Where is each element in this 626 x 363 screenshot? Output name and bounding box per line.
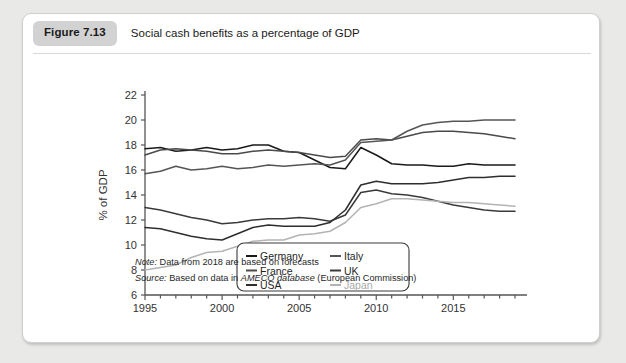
series-line-uk [145, 190, 515, 224]
y-tick-label: 18 [125, 139, 137, 151]
source-label: Source: [135, 273, 167, 283]
x-tick-label: 2005 [287, 302, 311, 314]
legend-label-italy: Italy [344, 250, 364, 262]
y-tick-label: 22 [125, 89, 137, 101]
series-line-france [145, 131, 515, 157]
figure-caption-text: Social cash benefits as a percentage of … [131, 28, 360, 40]
x-tick-label: 2000 [210, 302, 234, 314]
note-label: Note: [135, 257, 157, 267]
chart-area: 681012141618202219952000200520102015% of… [23, 54, 601, 343]
y-tick-label: 16 [125, 164, 137, 176]
source-database-name: AMECO database [241, 273, 315, 283]
x-tick-label: 1995 [133, 302, 157, 314]
figure-source: Source: Based on data in AMECO database … [135, 273, 416, 283]
y-tick-label: 6 [131, 289, 137, 301]
figure-note: Note: Data from 2018 are based on foreca… [135, 257, 319, 267]
y-tick-label: 14 [125, 189, 137, 201]
y-tick-label: 10 [125, 239, 137, 251]
source-pre: Based on data in [167, 273, 241, 283]
figure-card: Figure 7.13 Social cash benefits as a pe… [22, 13, 600, 343]
note-text: Data from 2018 are based on forecasts [157, 257, 319, 267]
line-chart: 681012141618202219952000200520102015% of… [23, 54, 601, 343]
y-tick-label: 20 [125, 114, 137, 126]
x-tick-label: 2015 [441, 302, 465, 314]
chart-legend[interactable]: GermanyItalyFranceUKUSAJapan [237, 243, 409, 291]
figure-number-badge: Figure 7.13 [33, 21, 117, 46]
y-tick-label: 12 [125, 214, 137, 226]
source-post: (European Commission) [315, 273, 417, 283]
x-tick-label: 2010 [364, 302, 388, 314]
figure-caption-bar: Figure 7.13 Social cash benefits as a pe… [23, 14, 599, 53]
y-axis-title: % of GDP [97, 169, 109, 220]
